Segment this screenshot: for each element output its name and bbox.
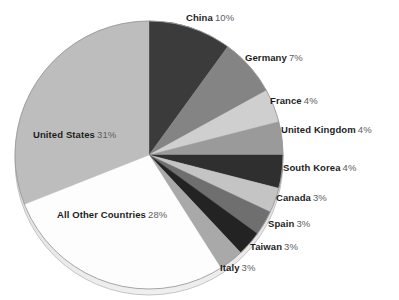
pie-slice-label: Canada3% bbox=[276, 192, 327, 203]
pie-slice-label-name: All Other Countries bbox=[57, 209, 146, 220]
pie-slice-label-name: France bbox=[270, 95, 302, 106]
pie-slice-label-percent: 3% bbox=[296, 218, 310, 229]
pie-slice-label: China10% bbox=[186, 12, 234, 23]
pie-slice-label-percent: 31% bbox=[97, 129, 116, 140]
pie-slice-label-name: South Korea bbox=[283, 162, 341, 173]
pie-slice-label-percent: 28% bbox=[148, 209, 167, 220]
pie-slice-label-percent: 4% bbox=[358, 124, 372, 135]
pie-slice-label-name: China bbox=[186, 12, 213, 23]
pie-slice-label-percent: 4% bbox=[343, 162, 357, 173]
pie-slice-label: Taiwan3% bbox=[250, 241, 298, 252]
pie-slice-label: Italy3% bbox=[220, 262, 255, 273]
pie-slice-label-percent: 4% bbox=[304, 95, 318, 106]
pie-slice-label-name: Taiwan bbox=[250, 241, 282, 252]
pie-slice-label: Spain3% bbox=[268, 218, 310, 229]
pie-slice-label: United States31% bbox=[33, 129, 116, 140]
pie-slice-label-percent: 3% bbox=[284, 241, 298, 252]
pie-chart: China10%Germany7%France4%United Kingdom4… bbox=[0, 0, 399, 300]
pie-slice-label-name: United Kingdom bbox=[281, 124, 356, 135]
pie-slice-label: South Korea4% bbox=[283, 162, 357, 173]
pie-slice-label-percent: 10% bbox=[215, 12, 234, 23]
pie-slices-group bbox=[15, 21, 283, 289]
pie-slice-label: All Other Countries28% bbox=[57, 209, 167, 220]
pie-slice-label-name: United States bbox=[33, 129, 95, 140]
pie-slice-label-name: Germany bbox=[245, 52, 287, 63]
pie-slice-label: United Kingdom4% bbox=[281, 124, 372, 135]
pie-slice-label: France4% bbox=[270, 95, 318, 106]
pie-slice-label: Germany7% bbox=[245, 52, 303, 63]
pie-slice-label-name: Canada bbox=[276, 192, 311, 203]
pie-slice-label-percent: 3% bbox=[242, 262, 256, 273]
pie-slice-label-name: Spain bbox=[268, 218, 294, 229]
pie-slice-label-percent: 3% bbox=[313, 192, 327, 203]
pie-chart-canvas bbox=[0, 0, 399, 300]
pie-slice-label-name: Italy bbox=[220, 262, 240, 273]
pie-slice-label-percent: 7% bbox=[289, 52, 303, 63]
